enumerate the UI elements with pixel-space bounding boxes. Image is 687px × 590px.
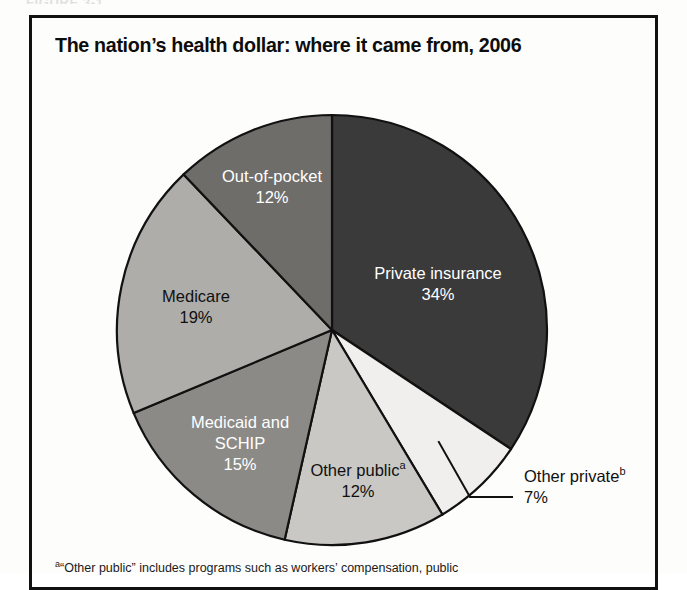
figure-number-header: FIGURE 3-1 (26, 0, 104, 4)
footnote-text: “Other public” includes programs such as… (60, 561, 458, 575)
figure-footnote: a“Other public” includes programs such a… (55, 558, 615, 577)
figure-title: The nation’s health dollar: where it cam… (55, 33, 593, 57)
figure-border-box (29, 15, 658, 590)
